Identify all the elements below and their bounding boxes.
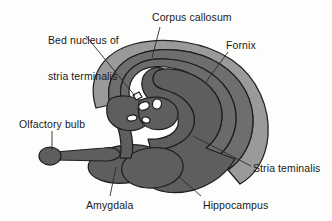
label-fornix: Fornix xyxy=(226,40,256,52)
label-bed-nucleus-of-stria-terminalis: Bed nucleus of stria terminalis xyxy=(48,10,119,106)
label-corpus-callosum: Corpus callosum xyxy=(152,12,232,24)
limbic-system-diagram: Bed nucleus of stria terminalis Corpus c… xyxy=(0,0,332,221)
label-olfactory-bulb: Olfactory bulb xyxy=(19,119,85,131)
olfactory-tract xyxy=(55,148,120,161)
label-hippocampus: Hippocampus xyxy=(203,200,268,212)
olfactory-bulb-shape xyxy=(39,147,61,165)
label-bed-nucleus-line2: stria terminalis xyxy=(48,70,119,82)
label-stria-teminalis: Stria teminalis xyxy=(253,163,320,175)
label-bed-nucleus-line1: Bed nucleus of xyxy=(48,34,119,46)
label-amygdala: Amygdala xyxy=(86,200,134,212)
